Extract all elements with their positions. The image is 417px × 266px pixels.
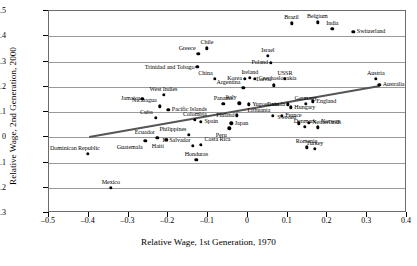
data-point <box>199 120 202 123</box>
data-point <box>248 76 251 79</box>
data-point-label: Trinidad and Tobago <box>145 64 195 70</box>
data-point <box>289 106 292 109</box>
data-point <box>205 47 208 50</box>
data-point <box>155 136 158 139</box>
y-axis-tick-mark <box>43 187 48 188</box>
data-point-label: Lithuania <box>247 107 270 113</box>
x-axis-tick-label: –0.4 <box>68 216 108 225</box>
x-axis-tick-mark <box>247 212 248 217</box>
y-axis-tick-label: –0.3 <box>0 208 6 217</box>
data-point <box>290 21 293 24</box>
data-point <box>305 146 308 149</box>
data-point-label: Switzerland <box>357 28 386 34</box>
data-point-label: Israel <box>261 47 274 53</box>
data-point-label: Turkey <box>306 140 323 146</box>
data-point-label: Spain <box>204 118 218 124</box>
data-point-label: Chile <box>200 39 213 45</box>
y-axis-tick-mark <box>43 10 48 11</box>
x-axis-tick-label: –0.1 <box>187 216 227 225</box>
data-point-label: Canada <box>267 101 285 107</box>
data-point-label: Belgium <box>307 13 328 19</box>
data-point-label: England <box>316 98 336 104</box>
data-point <box>144 139 147 142</box>
y-axis-tick-label: 0.3 <box>0 56 6 65</box>
data-point-label: Dominican Republic <box>50 145 100 151</box>
data-point-label: Finland <box>216 112 234 118</box>
y-axis-tick-label: –0.2 <box>0 182 6 191</box>
data-point <box>222 102 225 105</box>
data-point-label: Italy <box>226 94 237 100</box>
data-point <box>374 77 377 80</box>
x-axis-tick-mark <box>48 212 49 217</box>
gridline <box>49 62 405 63</box>
data-point <box>227 126 230 129</box>
y-axis-tick-mark <box>43 136 48 137</box>
data-point <box>313 147 316 150</box>
x-axis-tick-mark <box>128 212 129 217</box>
data-point <box>269 61 272 64</box>
data-point <box>266 54 269 57</box>
x-axis-tick-label: 0.2 <box>306 216 346 225</box>
x-axis-tick-mark <box>326 212 327 217</box>
data-point <box>271 114 274 117</box>
data-point <box>162 93 165 96</box>
data-point <box>229 122 232 125</box>
y-axis-tick-label: 0.1 <box>0 107 6 116</box>
y-axis-tick-mark <box>43 111 48 112</box>
data-point-label: Poland <box>251 59 268 65</box>
data-point <box>191 144 194 147</box>
data-point-label: Guatemala <box>117 144 143 150</box>
data-point <box>241 86 244 89</box>
x-axis-tick-mark <box>287 212 288 217</box>
data-point <box>154 116 157 119</box>
data-point <box>196 52 199 55</box>
data-point-label: Cuba <box>140 109 153 115</box>
data-point <box>316 21 319 24</box>
data-point-label: Latvia <box>256 76 271 82</box>
data-point-label: Brazil <box>284 14 299 20</box>
data-point <box>196 65 199 68</box>
x-axis-tick-label: 0.3 <box>346 216 386 225</box>
x-axis-tick-label: 0 <box>227 216 267 225</box>
y-axis-tick-label: 0.2 <box>0 81 6 90</box>
data-point-label: Ecuador <box>135 129 155 135</box>
data-point-label: Honduras <box>185 151 208 157</box>
gridline <box>49 163 405 164</box>
data-point <box>194 158 197 161</box>
data-point-label: Austria <box>367 70 385 76</box>
data-point-label: West Indies <box>150 86 178 92</box>
data-point <box>316 125 319 128</box>
data-point-label: Greece <box>179 45 196 51</box>
y-axis-tick-mark <box>43 162 48 163</box>
data-point <box>237 101 240 104</box>
data-point <box>109 186 112 189</box>
y-axis-tick-mark <box>43 61 48 62</box>
x-axis-tick-label: –0.5 <box>28 216 68 225</box>
data-point-label: Australia <box>383 81 405 87</box>
data-point <box>158 105 161 108</box>
y-axis-tick-label: 0.5 <box>0 6 6 15</box>
data-point <box>86 152 89 155</box>
x-axis-tick-label: 0.1 <box>267 216 307 225</box>
data-point-label: Japan <box>235 120 249 126</box>
data-point-label: El Salvador <box>162 137 190 143</box>
plot-area: Dominican RepublicMexicoJamaicaGuatemala… <box>48 10 406 212</box>
data-point-label: India <box>326 20 338 26</box>
data-point-label: Korea <box>227 75 242 81</box>
data-point-label: Philippines <box>160 126 187 132</box>
data-point-label: China <box>198 70 212 76</box>
data-point <box>303 125 306 128</box>
x-axis-tick-mark <box>406 212 407 217</box>
data-point-label: Colombia <box>183 111 207 117</box>
data-point-label: Ireland <box>241 69 258 75</box>
gridline <box>49 36 405 37</box>
data-point-label: Peru <box>216 132 227 138</box>
data-point <box>311 99 314 102</box>
data-point <box>352 30 355 33</box>
y-axis-title: Relative Wage, 2nd Generation, 2000 <box>8 16 18 216</box>
data-point-label: USSR <box>277 70 292 76</box>
data-point-label: Haiti <box>152 143 164 149</box>
y-axis-tick-label: 0 <box>0 132 6 141</box>
gridline <box>49 87 405 88</box>
data-point <box>199 143 202 146</box>
